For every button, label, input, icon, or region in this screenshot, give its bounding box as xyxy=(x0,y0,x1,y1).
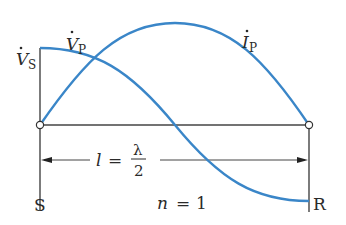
length-var: l xyxy=(96,150,101,170)
length-equals: = xyxy=(108,150,122,170)
mode-var: n xyxy=(157,193,168,213)
ip-dot-icon xyxy=(246,30,249,33)
vp-label-sub: P xyxy=(78,43,86,57)
mode-label: n = 1 xyxy=(157,193,207,213)
receiving-end-label: R xyxy=(313,194,327,214)
receiving-node-icon xyxy=(305,121,312,128)
vp-label: V P xyxy=(66,31,86,57)
vs-label-sub: S xyxy=(28,58,36,72)
ip-label-main: I xyxy=(241,32,249,52)
length-denominator: 2 xyxy=(134,162,144,180)
current-curve xyxy=(40,23,309,125)
sending-node-icon xyxy=(36,121,43,128)
arrow-right-icon xyxy=(297,157,308,163)
vs-label: V S xyxy=(16,47,36,72)
ip-label-sub: P xyxy=(249,41,257,55)
ip-label: I P xyxy=(241,30,257,55)
sending-end-label: S xyxy=(34,195,46,215)
mode-equals: = xyxy=(176,193,190,213)
vs-dot-icon xyxy=(20,47,23,50)
vp-dot-icon xyxy=(71,31,74,34)
length-formula: l = λ 2 xyxy=(96,141,146,180)
arrow-left-icon xyxy=(41,157,52,163)
standing-wave-diagram: V S V P I P l = λ 2 S R n = 1 xyxy=(0,0,346,225)
mode-value: 1 xyxy=(196,193,207,213)
length-lambda: λ xyxy=(133,141,143,159)
